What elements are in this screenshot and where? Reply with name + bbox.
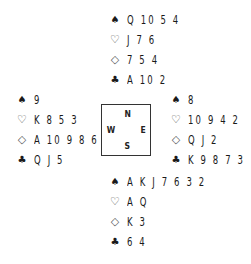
north-clubs-cards: A 10 2 bbox=[127, 70, 167, 90]
east-spades-cards: 8 bbox=[188, 90, 196, 110]
east-hand: ♠ 8 ♡ 10 9 4 2 ◇ Q J 2 ♣ K 9 8 7 3 bbox=[170, 90, 251, 170]
west-hearts-row: ♡ K 8 5 3 bbox=[16, 110, 113, 130]
south-spades-row: ♠ A K J 7 6 3 2 bbox=[109, 172, 224, 192]
south-spades-cards: A K J 7 6 3 2 bbox=[127, 172, 206, 192]
west-hearts-cards: K 8 5 3 bbox=[34, 110, 79, 130]
south-hand: ♠ A K J 7 6 3 2 ♡ A Q ◇ K 3 ♣ 6 4 bbox=[109, 172, 224, 252]
diamond-icon: ◇ bbox=[170, 130, 182, 150]
south-hearts-row: ♡ A Q bbox=[109, 192, 224, 212]
east-diamonds-row: ◇ Q J 2 bbox=[170, 130, 251, 150]
north-diamonds-cards: 7 5 4 bbox=[127, 50, 159, 70]
south-diamonds-cards: K 3 bbox=[127, 212, 147, 232]
west-clubs-cards: Q J 5 bbox=[34, 150, 65, 170]
diamond-icon: ◇ bbox=[16, 130, 28, 150]
west-diamonds-cards: A 10 9 8 6 bbox=[34, 130, 99, 150]
diamond-icon: ◇ bbox=[109, 50, 121, 70]
north-hand: ♠ Q 10 5 4 ♡ J 7 6 ◇ 7 5 4 ♣ A 10 2 bbox=[109, 10, 192, 90]
north-spades-row: ♠ Q 10 5 4 bbox=[109, 10, 192, 30]
compass-north-label: N bbox=[125, 109, 131, 119]
south-hearts-cards: A Q bbox=[127, 192, 149, 212]
north-spades-cards: Q 10 5 4 bbox=[127, 10, 180, 30]
east-clubs-cards: K 9 8 7 3 bbox=[188, 150, 245, 170]
compass-west-label: W bbox=[107, 125, 115, 135]
east-hearts-cards: 10 9 4 2 bbox=[188, 110, 240, 130]
diamond-icon: ◇ bbox=[109, 212, 121, 232]
club-icon: ♣ bbox=[109, 70, 121, 90]
club-icon: ♣ bbox=[109, 232, 121, 252]
west-diamonds-row: ◇ A 10 9 8 6 bbox=[16, 130, 113, 150]
heart-icon: ♡ bbox=[109, 30, 121, 50]
west-clubs-row: ♣ Q J 5 bbox=[16, 150, 113, 170]
north-clubs-row: ♣ A 10 2 bbox=[109, 70, 192, 90]
south-clubs-row: ♣ 6 4 bbox=[109, 232, 224, 252]
club-icon: ♣ bbox=[16, 150, 28, 170]
spade-icon: ♠ bbox=[170, 90, 182, 110]
north-hearts-cards: J 7 6 bbox=[127, 30, 156, 50]
heart-icon: ♡ bbox=[16, 110, 28, 130]
north-hearts-row: ♡ J 7 6 bbox=[109, 30, 192, 50]
heart-icon: ♡ bbox=[109, 192, 121, 212]
east-clubs-row: ♣ K 9 8 7 3 bbox=[170, 150, 251, 170]
east-hearts-row: ♡ 10 9 4 2 bbox=[170, 110, 251, 130]
west-hand: ♠ 9 ♡ K 8 5 3 ◇ A 10 9 8 6 ♣ Q J 5 bbox=[16, 90, 113, 170]
compass-east-label: E bbox=[140, 125, 145, 135]
spade-icon: ♠ bbox=[16, 90, 28, 110]
east-spades-row: ♠ 8 bbox=[170, 90, 251, 110]
compass-south-label: S bbox=[124, 141, 130, 151]
west-spades-row: ♠ 9 bbox=[16, 90, 113, 110]
east-diamonds-cards: Q J 2 bbox=[188, 130, 219, 150]
club-icon: ♣ bbox=[170, 150, 182, 170]
spade-icon: ♠ bbox=[109, 172, 121, 192]
north-diamonds-row: ◇ 7 5 4 bbox=[109, 50, 192, 70]
south-clubs-cards: 6 4 bbox=[127, 232, 147, 252]
south-diamonds-row: ◇ K 3 bbox=[109, 212, 224, 232]
compass-box: N W E S bbox=[101, 104, 151, 156]
heart-icon: ♡ bbox=[170, 110, 182, 130]
west-spades-cards: 9 bbox=[34, 90, 42, 110]
spade-icon: ♠ bbox=[109, 10, 121, 30]
